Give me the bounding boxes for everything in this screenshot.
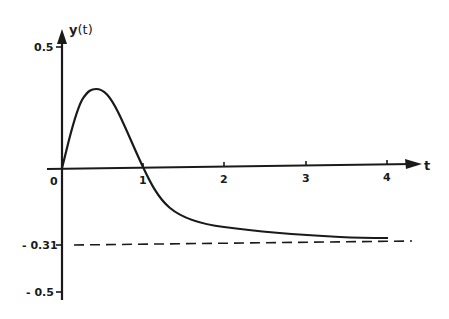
y-tick-label-neg0.31: - 0.31 [22, 239, 58, 252]
response-curve [62, 89, 388, 238]
step-response-chart: y(t) t 0 1 2 3 4 0.5 - 0.31 - 0.5 [0, 0, 449, 319]
y-tick-label-0.5: 0.5 [34, 41, 54, 54]
y-axis-title: y(t) [69, 22, 93, 37]
asymptote-dashed-line [74, 241, 412, 245]
labels: y(t) t 0 1 2 3 4 0.5 - 0.31 - 0.5 [22, 22, 430, 299]
x-tick-label-3: 3 [302, 172, 310, 185]
x-axis [47, 164, 412, 169]
x-tick-label-1: 1 [139, 174, 147, 187]
plot-area [47, 29, 422, 300]
x-tick-label-2: 2 [220, 173, 228, 186]
x-axis-arrow-icon [405, 159, 422, 169]
y-tick-label-neg0.5: - 0.5 [26, 286, 54, 299]
x-tick-label-4: 4 [383, 171, 391, 184]
y-axis-arrow-icon [57, 29, 67, 44]
x-axis-title: t [424, 158, 430, 173]
origin-label: 0 [50, 175, 58, 188]
